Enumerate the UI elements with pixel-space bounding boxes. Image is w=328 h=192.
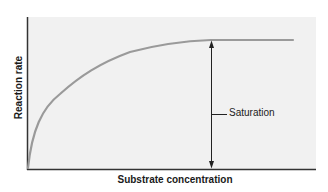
chart-svg (0, 0, 328, 192)
rate-curve (28, 40, 293, 168)
arrow-head-down-icon (209, 161, 214, 169)
x-axis-label: Substrate concentration (100, 174, 250, 185)
arrow-head-up-icon (209, 41, 214, 49)
y-axis-label: Reaction rate (13, 48, 24, 128)
saturation-label: Saturation (229, 107, 275, 118)
